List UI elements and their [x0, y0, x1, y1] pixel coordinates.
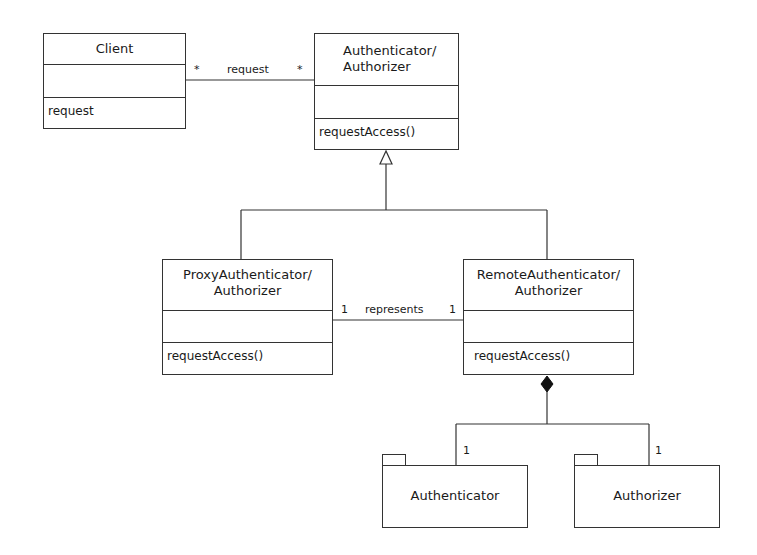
class-remote-authenticator-authorizer[interactable]: RemoteAuthenticator/ Authorizer requestA… [463, 259, 634, 375]
class-name-line1: RemoteAuthenticator/ [464, 267, 633, 283]
class-name-line1: Authenticator/ [343, 43, 458, 59]
multiplicity-remote: 1 [449, 304, 456, 316]
class-authenticator-authorizer[interactable]: Authenticator/ Authorizer requestAccess(… [314, 33, 459, 150]
operation: requestAccess() [163, 343, 332, 364]
class-name-line2: Authorizer [163, 283, 332, 299]
association-label-represents: represents [365, 304, 424, 316]
class-name-line2: Authorizer [464, 283, 633, 299]
class-proxy-authenticator-authorizer[interactable]: ProxyAuthenticator/ Authorizer requestAc… [162, 259, 333, 375]
operation: requestAccess() [315, 119, 458, 140]
package-authenticator[interactable]: Authenticator [382, 465, 528, 528]
class-name-line1: ProxyAuthenticator/ [163, 267, 332, 283]
class-name-line2: Authorizer [343, 59, 458, 75]
operation: request [44, 98, 185, 119]
multiplicity-authenticator: * [297, 64, 303, 76]
multiplicity-proxy: 1 [341, 304, 348, 316]
attributes-section [163, 311, 332, 343]
multiplicity-client: * [194, 64, 200, 76]
attributes-section [44, 65, 185, 98]
multiplicity-authenticator-package: 1 [463, 445, 470, 457]
class-name: Client [44, 34, 185, 57]
class-client[interactable]: Client request [43, 33, 186, 129]
package-authorizer[interactable]: Authorizer [574, 465, 720, 528]
operation: requestAccess() [464, 343, 633, 364]
package-name: Authenticator [383, 488, 527, 503]
multiplicity-authorizer-package: 1 [655, 445, 662, 457]
package-name: Authorizer [575, 488, 719, 503]
attributes-section [315, 86, 458, 119]
association-label-request: request [227, 64, 269, 76]
attributes-section [464, 311, 633, 343]
